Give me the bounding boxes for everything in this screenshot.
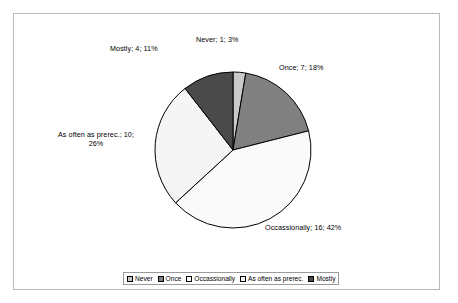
- legend-item-label: Once: [166, 275, 182, 282]
- legend-swatch-icon: [308, 276, 314, 282]
- chart-legend: NeverOnceOccassionallyAs often as prerec…: [123, 272, 339, 285]
- legend-item-label: Occassionally: [194, 275, 235, 282]
- legend-item-label: Mostly: [316, 275, 335, 282]
- pie-graphic: [0, 0, 458, 303]
- legend-swatch-icon: [158, 276, 164, 282]
- legend-item-label: Never: [135, 275, 153, 282]
- legend-item[interactable]: Occassionally: [186, 275, 235, 282]
- legend-item[interactable]: As often as prerec.: [240, 275, 303, 282]
- pie-slices: [155, 72, 311, 228]
- legend-swatch-icon: [240, 276, 246, 282]
- data-label-occassionally: Occassionally; 16; 42%: [265, 224, 341, 233]
- legend-item[interactable]: Once: [158, 275, 182, 282]
- legend-item[interactable]: Never: [127, 275, 153, 282]
- legend-item[interactable]: Mostly: [308, 275, 335, 282]
- data-label-mostly: Mostly; 4; 11%: [110, 45, 158, 54]
- pie-chart-figure: Never; 1; 3% Once; 7; 18% Occassionally;…: [0, 0, 458, 303]
- legend-item-label: As often as prerec.: [248, 275, 303, 282]
- legend-swatch-icon: [186, 276, 192, 282]
- legend-swatch-icon: [127, 276, 133, 282]
- data-label-once: Once; 7; 18%: [279, 64, 323, 73]
- data-label-never: Never; 1; 3%: [196, 36, 238, 45]
- data-label-as-often-as-prerec: As often as prerec.; 10; 26%: [56, 131, 136, 148]
